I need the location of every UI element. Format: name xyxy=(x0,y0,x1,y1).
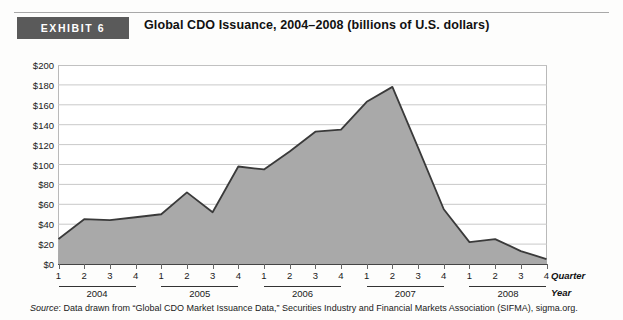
y-axis-tick-label: $60 xyxy=(38,199,54,210)
y-axis-tick-label: $0 xyxy=(43,259,54,270)
x-axis-tick xyxy=(290,264,291,269)
x-axis-quarter-label: 4 xyxy=(126,270,146,281)
x-axis-quarter-label: 3 xyxy=(203,270,223,281)
source-text: : Data drawn from “Global CDO Market Iss… xyxy=(59,303,578,313)
x-axis-quarter-label: 4 xyxy=(434,270,454,281)
y-axis-labels: $0$20$40$60$80$100$120$140$160$180$200 xyxy=(10,58,54,271)
x-axis-tick xyxy=(110,264,111,269)
x-axis-tick xyxy=(495,264,496,269)
y-axis-tick-label: $80 xyxy=(38,179,54,190)
x-axis-quarter-label: 1 xyxy=(459,270,479,281)
x-axis-year-label: 2005 xyxy=(189,288,210,299)
source-note: Source: Data drawn from “Global CDO Mark… xyxy=(30,303,578,313)
x-axis-quarter-label: 2 xyxy=(280,270,300,281)
x-axis-quarter-label: 1 xyxy=(49,270,69,281)
x-axis-tick xyxy=(392,264,393,269)
page-title: Global CDO Issuance, 2004–2008 (billions… xyxy=(144,18,489,32)
year-group-rule xyxy=(367,286,444,287)
x-axis-line xyxy=(58,264,547,265)
y-axis-tick-label: $20 xyxy=(38,239,54,250)
y-axis-tick-label: $180 xyxy=(33,79,54,90)
chart-container: $0$20$40$60$80$100$120$140$160$180$200 1… xyxy=(0,48,623,293)
source-label: Source xyxy=(30,303,59,313)
x-axis-tick xyxy=(341,264,342,269)
y-axis-tick-label: $200 xyxy=(33,60,54,71)
x-axis-quarter-label: 1 xyxy=(151,270,171,281)
x-axis-quarter-label: 4 xyxy=(331,270,351,281)
x-axis-tick xyxy=(59,264,60,269)
x-axis-year-label: 2006 xyxy=(292,288,313,299)
x-axis-tick xyxy=(367,264,368,269)
x-axis-tick xyxy=(136,264,137,269)
x-axis-quarter-label: 3 xyxy=(100,270,120,281)
x-axis-tick xyxy=(547,264,548,269)
x-axis-tick xyxy=(161,264,162,269)
x-axis-tick xyxy=(187,264,188,269)
y-axis-tick-label: $40 xyxy=(38,219,54,230)
x-axis-year-label: 2004 xyxy=(86,288,107,299)
x-axis-tick xyxy=(418,264,419,269)
x-axis-tick xyxy=(444,264,445,269)
x-axis-tick xyxy=(264,264,265,269)
x-axis-tick xyxy=(213,264,214,269)
header-divider xyxy=(14,12,609,13)
year-group-rule xyxy=(161,286,238,287)
year-group-rule xyxy=(469,286,546,287)
y-axis-tick-label: $100 xyxy=(33,159,54,170)
exhibit-badge: EXHIBIT 6 xyxy=(17,17,129,39)
x-axis-tick xyxy=(469,264,470,269)
x-axis-quarter-label: 2 xyxy=(177,270,197,281)
y-axis-tick-label: $160 xyxy=(33,99,54,110)
x-axis-quarter-label: 2 xyxy=(382,270,402,281)
x-axis-year-label: 2008 xyxy=(497,288,518,299)
y-axis-tick-label: $140 xyxy=(33,119,54,130)
year-group-rule xyxy=(59,286,136,287)
x-axis-quarter-label: 1 xyxy=(357,270,377,281)
x-axis-quarter-label: 3 xyxy=(511,270,531,281)
x-axis-quarter-label: 3 xyxy=(408,270,428,281)
y-axis-tick-label: $120 xyxy=(33,139,54,150)
x-axis-quarter-label: 1 xyxy=(254,270,274,281)
year-group-rule xyxy=(264,286,341,287)
x-axis-quarter-label: 2 xyxy=(485,270,505,281)
axis-caption-year: Year xyxy=(551,287,571,298)
x-axis-quarter-label: 2 xyxy=(74,270,94,281)
x-axis-quarter-label: 4 xyxy=(228,270,248,281)
x-axis-quarter-label: 3 xyxy=(305,270,325,281)
x-axis-tick xyxy=(238,264,239,269)
axis-caption-quarter: Quarter xyxy=(551,270,585,281)
x-axis-year-label: 2007 xyxy=(395,288,416,299)
x-axis-tick xyxy=(315,264,316,269)
x-axis-tick xyxy=(84,264,85,269)
area-chart-svg xyxy=(58,65,547,264)
x-axis-tick xyxy=(521,264,522,269)
area-fill xyxy=(58,87,547,264)
